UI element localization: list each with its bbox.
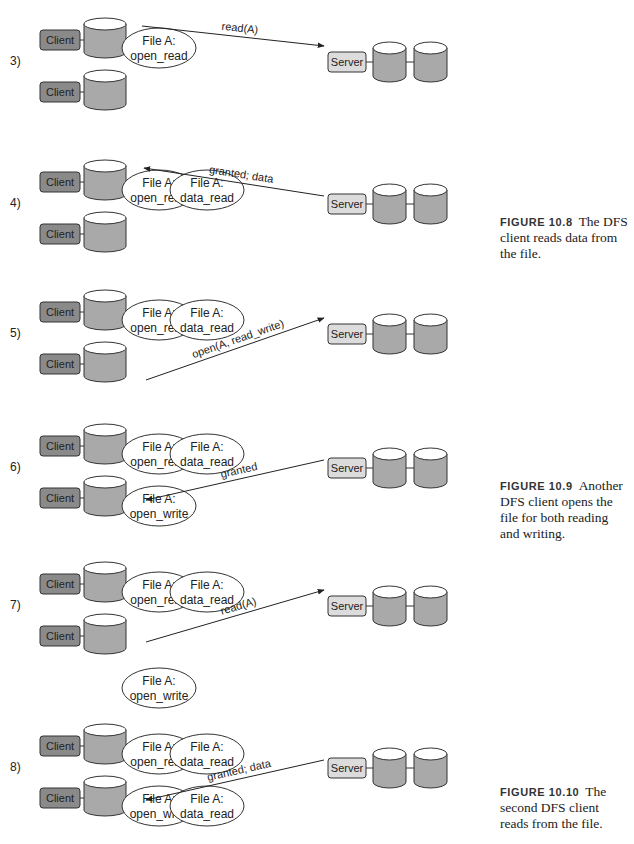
svg-text:File A:: File A:: [190, 792, 223, 806]
server-disk-2: [414, 448, 447, 488]
client-1-disk: [84, 562, 126, 602]
client-2-disk: [84, 70, 126, 110]
client-2-box: Client: [40, 354, 80, 374]
server-disk-1: [373, 586, 406, 626]
client-1-box: Client: [40, 172, 80, 192]
client-1-box: Client: [40, 736, 80, 756]
client-1-box-label: Client: [46, 176, 74, 188]
server-disk-2: [414, 42, 447, 82]
client-2-disk: [84, 342, 126, 382]
client-2-box-label: Client: [46, 86, 74, 98]
svg-text:data_read: data_read: [180, 191, 234, 205]
client-1-box-label: Client: [46, 34, 74, 46]
svg-text:data_read: data_read: [180, 807, 234, 821]
figure-number: FIGURE 10.10: [500, 786, 579, 798]
client-1-disk: [84, 290, 126, 330]
server-disk-2: [414, 314, 447, 354]
server-box-label: Server: [331, 462, 364, 474]
server-box-label: Server: [331, 762, 364, 774]
panel-step-3: 3)ClientClientServerFile A:open_readread…: [10, 18, 447, 110]
client-2-box-label: Client: [46, 228, 74, 240]
server-disk-1: [373, 42, 406, 82]
client-1-disk: [84, 424, 126, 464]
client-2-box-label: Client: [46, 792, 74, 804]
step-label: 3): [10, 54, 21, 68]
client-2-box-label: Client: [46, 358, 74, 370]
step-label: 7): [10, 598, 21, 612]
client-2-box: Client: [40, 788, 80, 808]
server-disk-1: [373, 448, 406, 488]
client-2-disk: [84, 476, 126, 516]
client-2-disk: [84, 776, 126, 816]
server-disk-1: [373, 748, 406, 788]
client-2-disk: [84, 212, 126, 252]
panel-step-5: 5)ClientClientServerFile A:open_readFile…: [10, 290, 447, 382]
server-box: Server: [328, 758, 366, 778]
figure-caption: FIGURE 10.10The second DFS client reads …: [500, 784, 630, 832]
server-box: Server: [328, 596, 366, 616]
svg-text:File A:: File A:: [190, 740, 223, 754]
client-1-box: Client: [40, 436, 80, 456]
step-label: 5): [10, 326, 21, 340]
figure-caption: FIGURE 10.8The DFS client reads data fro…: [500, 214, 630, 262]
svg-text:open_read: open_read: [130, 49, 187, 63]
svg-text:open_write: open_write: [130, 689, 189, 703]
panel-step-7: 7)ClientClientServerFile A:open_readFile…: [10, 562, 447, 708]
svg-text:File A:: File A:: [190, 306, 223, 320]
server-box-label: Server: [331, 198, 364, 210]
server-box: Server: [328, 458, 366, 478]
client-2-box: Client: [40, 224, 80, 244]
client-1-box: Client: [40, 302, 80, 322]
svg-text:open_write: open_write: [130, 507, 189, 521]
client-1-box-label: Client: [46, 578, 74, 590]
svg-text:data_read: data_read: [180, 321, 234, 335]
client-2-disk: [84, 614, 126, 654]
svg-text:File A:: File A:: [190, 578, 223, 592]
server-disk-2: [414, 748, 447, 788]
client-1-disk: [84, 724, 126, 764]
client-1-box: Client: [40, 30, 80, 50]
server-box-label: Server: [331, 56, 364, 68]
server-disk-1: [373, 184, 406, 224]
client-1-disk: [84, 18, 126, 58]
panel-step-4: 4)ClientClientServerFile A:open_readFile…: [10, 160, 447, 252]
figure-caption: FIGURE 10.9Another DFS client opens the …: [500, 478, 630, 542]
client-2-box: Client: [40, 488, 80, 508]
step-label: 6): [10, 460, 21, 474]
client-1-box-label: Client: [46, 440, 74, 452]
figure-number: FIGURE 10.9: [500, 480, 573, 492]
svg-text:File A:: File A:: [142, 674, 175, 688]
file-state-bubble: File A:open_write: [122, 668, 196, 708]
client-1-box-label: Client: [46, 306, 74, 318]
panel-step-6: 6)ClientClientServerFile A:open_readFile…: [10, 424, 447, 526]
message-label: read(A): [221, 20, 259, 36]
server-box-label: Server: [331, 328, 364, 340]
step-label: 4): [10, 196, 21, 210]
server-box: Server: [328, 52, 366, 72]
figure-number: FIGURE 10.8: [500, 216, 573, 228]
server-disk-1: [373, 314, 406, 354]
client-2-box: Client: [40, 82, 80, 102]
client-1-box: Client: [40, 574, 80, 594]
step-label: 8): [10, 760, 21, 774]
svg-text:File A:: File A:: [190, 440, 223, 454]
panel-step-8: 8)ClientClientServerFile A:open_readFile…: [10, 724, 447, 826]
client-2-box: Client: [40, 626, 80, 646]
server-box: Server: [328, 194, 366, 214]
server-box: Server: [328, 324, 366, 344]
file-state-bubble: File A:open_read: [122, 28, 196, 68]
client-2-box-label: Client: [46, 630, 74, 642]
server-disk-2: [414, 586, 447, 626]
svg-text:File A:: File A:: [142, 34, 175, 48]
client-1-box-label: Client: [46, 740, 74, 752]
dfs-diagram: 3)ClientClientServerFile A:open_readread…: [0, 0, 634, 844]
client-1-disk: [84, 160, 126, 200]
file-state-bubble: File A:open_write: [122, 486, 196, 526]
server-disk-2: [414, 184, 447, 224]
client-2-box-label: Client: [46, 492, 74, 504]
server-box-label: Server: [331, 600, 364, 612]
